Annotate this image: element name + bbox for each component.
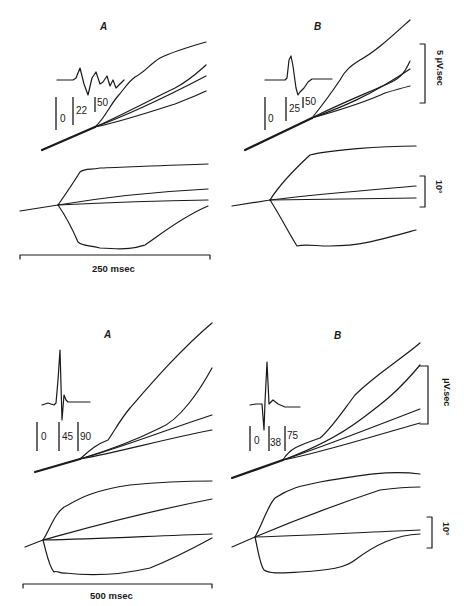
time-scale-label-500: 500 msec (90, 591, 133, 601)
bottom-b-waveform (250, 362, 300, 430)
tick-bottom-a-0: 0 (41, 432, 47, 442)
tick-top-a-50: 50 (97, 98, 108, 108)
bottom-b-angle-traces (232, 473, 420, 573)
time-scale-label-250: 250 msec (92, 264, 135, 274)
integral-scale-bracket-top (420, 44, 425, 103)
panel-label-bottom-a: A (104, 330, 111, 340)
tick-bottom-b-75: 75 (287, 431, 298, 441)
tick-top-b-50: 50 (305, 97, 316, 107)
top-b-waveform (265, 56, 332, 95)
panel-label-top-b: B (314, 22, 321, 32)
tick-top-a-0: 0 (60, 114, 66, 124)
time-scale-bar-500 (23, 584, 212, 588)
angle-scale-label-bottom: 10° (441, 522, 450, 536)
top-a-angle-traces (20, 164, 208, 249)
tick-top-b-0: 0 (268, 114, 274, 124)
angle-scale-bracket-bottom (427, 517, 432, 548)
tick-bottom-b-38: 38 (270, 438, 281, 448)
top-b-angle-traces (232, 146, 416, 246)
angle-scale-label-top: 10° (434, 180, 443, 194)
tick-bottom-a-90: 90 (80, 432, 91, 442)
integral-scale-bracket-bottom (420, 366, 428, 424)
bottom-b-integral-traces (232, 343, 420, 478)
tick-top-a-22: 22 (76, 106, 87, 116)
panel-label-top-a: A (100, 22, 107, 32)
top-b-integral-traces (245, 20, 410, 150)
tick-top-b-25: 25 (289, 104, 300, 114)
tick-bottom-b-0: 0 (254, 436, 260, 446)
top-a-integral-traces (42, 42, 206, 150)
figure: A B 0 22 50 0 25 50 5 μV.sec 10° 250 mse… (0, 0, 464, 606)
integral-scale-label-bottom: μV.sec (442, 378, 451, 406)
angle-scale-bracket-top (420, 176, 425, 207)
bottom-a-waveform (42, 350, 90, 420)
time-scale-bar-250 (20, 255, 210, 259)
tick-bottom-a-45: 45 (62, 432, 73, 442)
trace-plot (0, 0, 464, 606)
panel-label-bottom-b: B (334, 331, 341, 341)
bottom-a-angle-traces (25, 481, 212, 575)
integral-scale-label-top: 5 μV.sec (435, 50, 444, 86)
top-a-waveform (57, 68, 124, 95)
